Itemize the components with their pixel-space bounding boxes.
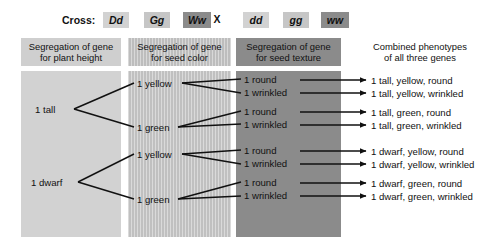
phenotype-6: 1 dwarf, yellow, wrinkled xyxy=(371,159,474,170)
phenotype-8: 1 dwarf, green, wrinkled xyxy=(371,191,473,202)
node-color-yellow-1: 1 yellow xyxy=(137,78,172,89)
node-texture-round-1: 1 round xyxy=(244,74,277,85)
node-height-tall: 1 tall xyxy=(35,104,55,115)
phenotype-4: 1 tall, green, wrinkled xyxy=(371,120,462,131)
node-color-green-1: 1 green xyxy=(137,122,170,133)
phenotype-1: 1 tall, yellow, round xyxy=(371,75,453,86)
node-texture-wrinkled-1: 1 wrinkled xyxy=(244,87,287,98)
node-color-green-2: 1 green xyxy=(137,194,170,205)
node-texture-round-3: 1 round xyxy=(244,145,277,156)
phenotype-7: 1 dwarf, green, round xyxy=(371,178,462,189)
node-color-yellow-2: 1 yellow xyxy=(137,149,172,160)
node-texture-round-4: 1 round xyxy=(244,177,277,188)
genetics-cross-diagram: Cross: Dd Gg Ww X dd gg ww Segregation o… xyxy=(0,0,493,237)
phenotype-2: 1 tall, yellow, wrinkled xyxy=(371,88,463,99)
phenotype-3: 1 tall, green, round xyxy=(371,107,451,118)
node-texture-wrinkled-2: 1 wrinkled xyxy=(244,119,287,130)
node-height-dwarf: 1 dwarf xyxy=(31,177,62,188)
node-texture-wrinkled-4: 1 wrinkled xyxy=(244,190,287,201)
phenotype-5: 1 dwarf, yellow, round xyxy=(371,146,464,157)
node-texture-round-2: 1 round xyxy=(244,106,277,117)
node-texture-wrinkled-3: 1 wrinkled xyxy=(244,158,287,169)
